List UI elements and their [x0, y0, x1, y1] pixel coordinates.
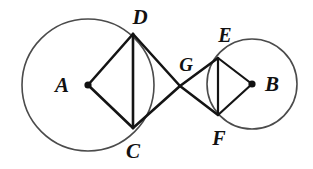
segment-EB [218, 58, 252, 84]
segment-GF [180, 86, 218, 115]
point-label-B: B [265, 74, 279, 95]
point-label-C: C [126, 141, 140, 162]
point-label-E: E [218, 25, 231, 45]
segment-AD [88, 34, 133, 85]
point-label-D: D [132, 7, 147, 28]
segment-CG [133, 86, 180, 128]
point-label-F: F [212, 128, 225, 148]
segment-AC [88, 85, 133, 128]
point-dot-A [84, 81, 91, 88]
point-label-G: G [179, 55, 193, 74]
segment-DG [133, 34, 180, 86]
geometry-figure: A B C D E F G [0, 0, 313, 169]
point-dot-B [248, 80, 255, 87]
point-label-A: A [55, 75, 69, 96]
segment-FB [218, 84, 252, 115]
